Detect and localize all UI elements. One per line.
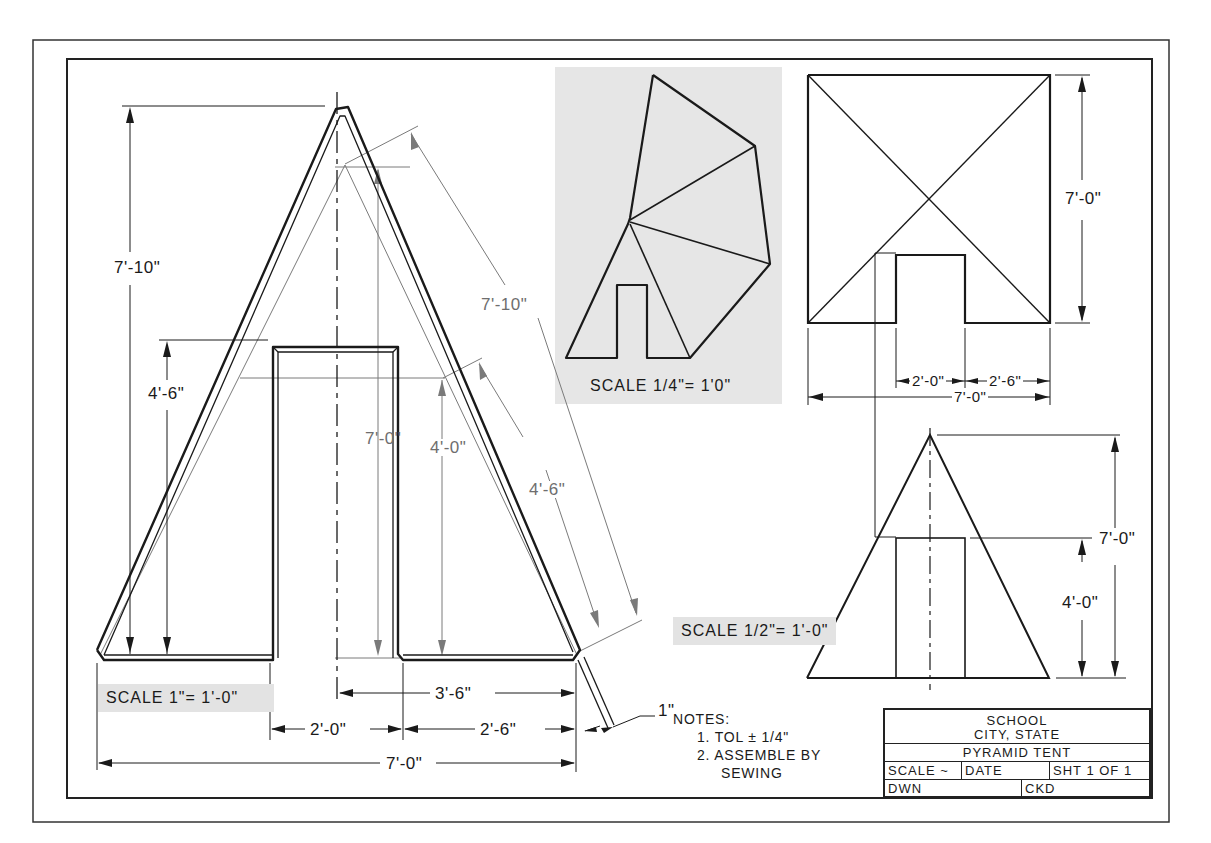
dim-door-inner-height: 4'-0"	[428, 439, 468, 456]
drawing-title: PYRAMID TENT	[885, 744, 1149, 761]
main-view-outline	[97, 107, 614, 728]
dim-door-height: 4'-6"	[146, 385, 186, 402]
dim-slant-length: 7'-10"	[479, 296, 529, 313]
pattern-view-background	[555, 67, 782, 404]
top-view-arrows	[809, 76, 1086, 401]
front-view-dim-door-height: 4'-0"	[1060, 594, 1100, 611]
drawn-by-field: DWN	[885, 780, 1021, 796]
notes-block: NOTES: 1. TOL ± 1/4" 2. ASSEMBLE BY SEWI…	[673, 710, 821, 782]
front-view-scale-label: SCALE 1/2"= 1'-0"	[673, 617, 836, 645]
top-view-dim-depth: 7'-0"	[1063, 190, 1103, 207]
drawing-sheet: 7'-10" 4'-6" 7'-10" 7'-0" 4'-0" 4'-6" 3'…	[0, 0, 1211, 843]
main-view-black-arrows	[98, 107, 613, 767]
top-view-dim-door-width: 2'-0"	[910, 373, 946, 388]
top-view-dim-side-width: 2'-6"	[987, 373, 1023, 388]
scale-field: SCALE ~	[885, 762, 961, 779]
top-view	[808, 75, 1090, 537]
date-field: DATE	[961, 762, 1049, 779]
school-location: CITY, STATE	[974, 728, 1060, 741]
dim-door-width: 2'-0"	[308, 721, 348, 738]
checked-by-field: CKD	[1021, 780, 1149, 796]
note-item-1: 1. TOL ± 1/4"	[673, 728, 821, 746]
top-view-dim-width: 7'-0"	[952, 389, 988, 404]
notes-heading: NOTES:	[673, 710, 821, 728]
note-item-2-cont: SEWING	[673, 764, 821, 782]
school-name: SCHOOL	[987, 714, 1048, 727]
sheet-field: SHT 1 OF 1	[1049, 762, 1149, 779]
dim-side-width: 2'-6"	[478, 721, 518, 738]
main-view-scale-label: SCALE 1"= 1'-0"	[98, 684, 274, 712]
dim-slant-door: 4'-6"	[527, 481, 567, 498]
front-view-arrows	[1078, 436, 1119, 677]
dim-inner-height: 7'-0"	[363, 430, 403, 447]
title-block-header: SCHOOL CITY, STATE	[885, 710, 1149, 743]
dim-base-width: 7'-0"	[384, 755, 424, 772]
note-item-2: 2. ASSEMBLE BY	[673, 746, 821, 764]
pattern-view-scale-label: SCALE 1/4"= 1'0"	[590, 378, 731, 394]
title-block: SCHOOL CITY, STATE PYRAMID TENT SCALE ~ …	[883, 708, 1151, 798]
front-view-dim-height: 7'-0"	[1097, 530, 1137, 547]
dim-total-height: 7'-10"	[112, 259, 162, 276]
front-view	[807, 428, 1126, 690]
dim-half-base: 3'-6"	[433, 685, 473, 702]
